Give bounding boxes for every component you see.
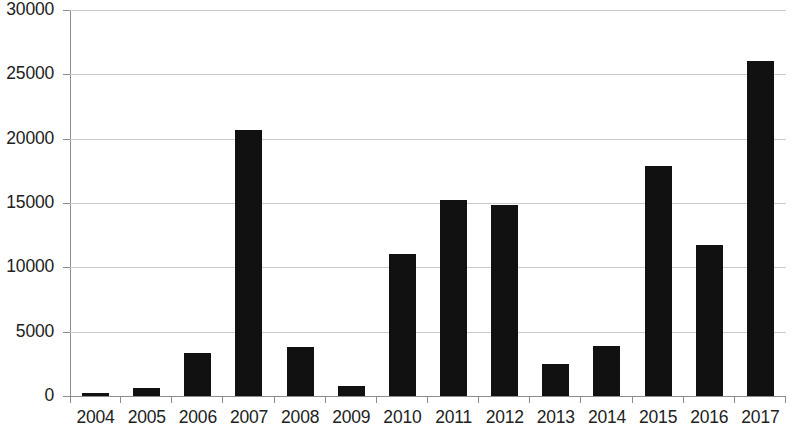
y-axis-tick-mark	[63, 267, 70, 268]
bar-slot	[275, 10, 326, 396]
bar-slot	[326, 10, 377, 396]
bar-2009[interactable]	[338, 386, 365, 396]
x-axis-labels: 2004200520062007200820092010201120122013…	[70, 404, 786, 432]
bar-2008[interactable]	[287, 347, 314, 396]
bar-2007[interactable]	[235, 130, 262, 396]
y-axis-tick-mark	[63, 396, 70, 397]
x-axis-tick-cell	[275, 396, 326, 404]
bar-chart: 050001000015000200002500030000 200420052…	[0, 0, 792, 432]
bar-slot	[70, 10, 121, 396]
x-axis-tick-cell	[377, 396, 428, 404]
bar-slot	[684, 10, 735, 396]
x-axis-tick-cell	[684, 396, 735, 404]
y-axis-tick-label: 15000	[6, 194, 54, 212]
bar-slot	[581, 10, 632, 396]
x-axis-tick-label: 2013	[530, 404, 581, 432]
y-axis-tick-mark	[63, 74, 70, 75]
x-axis-tick-cell	[530, 396, 581, 404]
y-axis-tick-label: 0	[44, 387, 54, 405]
x-axis-tick-cell	[121, 396, 172, 404]
x-axis-tick-label: 2007	[223, 404, 274, 432]
x-axis-tick-label: 2017	[735, 404, 786, 432]
x-axis-tick-cell	[735, 396, 786, 404]
bar-slot	[223, 10, 274, 396]
x-axis-tick-label: 2006	[172, 404, 223, 432]
x-axis-tick-label: 2016	[684, 404, 735, 432]
y-axis-tick-label: 30000	[6, 1, 54, 19]
bar-slot	[428, 10, 479, 396]
y-axis-tick-mark	[63, 10, 70, 11]
plot-area	[70, 10, 786, 396]
x-axis-tick-label: 2005	[121, 404, 172, 432]
bar-2012[interactable]	[491, 205, 518, 396]
x-axis-tick-label: 2011	[428, 404, 479, 432]
x-axis-tick-mark	[70, 396, 71, 403]
y-axis-tick-label: 5000	[16, 323, 54, 341]
x-axis-tick-label: 2010	[377, 404, 428, 432]
x-axis-tick-cell	[326, 396, 377, 404]
x-axis-tick-cell	[70, 396, 121, 404]
x-axis-tick-label: 2009	[326, 404, 377, 432]
bar-slot	[377, 10, 428, 396]
bar-2013[interactable]	[542, 364, 569, 396]
x-axis-tick-cell	[581, 396, 632, 404]
x-axis-tick-cell	[479, 396, 530, 404]
x-axis-ticks	[70, 396, 786, 404]
bar-slot	[530, 10, 581, 396]
y-axis-tick-mark	[63, 203, 70, 204]
bar-2006[interactable]	[184, 353, 211, 396]
x-axis-tick-label: 2012	[479, 404, 530, 432]
bar-2010[interactable]	[389, 254, 416, 396]
x-axis-tick-cell	[428, 396, 479, 404]
y-axis-tick-label: 25000	[6, 66, 54, 84]
x-axis-tick-cell	[633, 396, 684, 404]
y-axis-tick-mark	[63, 139, 70, 140]
bar-slot	[633, 10, 684, 396]
x-axis-tick-label: 2015	[633, 404, 684, 432]
y-axis-tick-mark	[63, 332, 70, 333]
bar-2005[interactable]	[133, 388, 160, 396]
x-axis-tick-cell	[172, 396, 223, 404]
bar-2015[interactable]	[645, 166, 672, 396]
y-axis-tick-label: 20000	[6, 130, 54, 148]
bar-slot	[121, 10, 172, 396]
x-axis-tick-label: 2008	[275, 404, 326, 432]
bar-2017[interactable]	[747, 61, 774, 396]
y-axis: 050001000015000200002500030000	[0, 0, 62, 432]
y-axis-tick-label: 10000	[6, 259, 54, 277]
bar-slot	[172, 10, 223, 396]
bar-series	[70, 10, 786, 396]
bar-slot	[479, 10, 530, 396]
x-axis-tick-mark	[785, 396, 786, 403]
bar-2014[interactable]	[593, 346, 620, 396]
x-axis-tick-cell	[223, 396, 274, 404]
bar-slot	[735, 10, 786, 396]
bar-2011[interactable]	[440, 200, 467, 396]
x-axis-tick-label: 2014	[581, 404, 632, 432]
x-axis-tick-label: 2004	[70, 404, 121, 432]
bar-2016[interactable]	[696, 245, 723, 396]
